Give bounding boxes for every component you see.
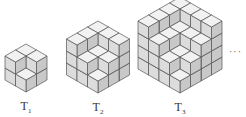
label-subscript: 3 (182, 108, 186, 116)
cube-pattern-figure (0, 0, 246, 117)
shape-t1 (5, 44, 47, 92)
label-t3: T3 (175, 100, 186, 116)
label-t2: T2 (93, 100, 104, 116)
label-subscript: 2 (100, 108, 104, 116)
label-subscript: 1 (28, 107, 32, 115)
shape-t3 (138, 0, 222, 93)
continuation-ellipsis: ··· (229, 46, 242, 57)
shape-t2 (67, 21, 130, 93)
label-t1: T1 (21, 99, 32, 115)
